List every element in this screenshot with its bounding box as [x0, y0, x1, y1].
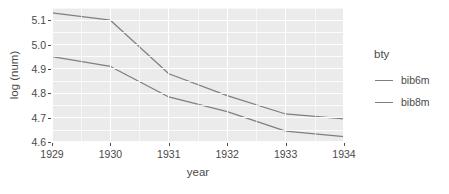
x-axis-tick-mark	[227, 143, 228, 146]
x-axis-title: year	[52, 166, 344, 178]
x-axis-tick-label: 1929	[32, 149, 72, 160]
y-axis-tick-mark	[48, 118, 51, 119]
plot-panel	[52, 8, 344, 142]
line-chart: log (num) 4.64.74.84.95.05.1 19291930193…	[0, 0, 449, 194]
legend-item-bib6m[interactable]: bib6m	[374, 69, 446, 91]
legend-item-label: bib8m	[401, 96, 430, 108]
gridline-minor-vertical	[139, 8, 140, 142]
legend-title: bty	[374, 48, 446, 60]
x-axis-tick-label: 1932	[207, 149, 247, 160]
gridline-minor-vertical	[315, 8, 316, 142]
gridline-major-vertical	[110, 8, 111, 142]
gridline-major-vertical	[227, 8, 228, 142]
legend-line-key-icon	[374, 94, 394, 110]
x-axis-tick-label: 1933	[266, 149, 306, 160]
legend-item-bib8m[interactable]: bib8m	[374, 91, 446, 113]
y-axis-tick-mark	[48, 20, 51, 21]
legend-items: bib6mbib8m	[374, 69, 446, 113]
y-axis-tick-mark	[48, 142, 51, 143]
gridline-minor-vertical	[198, 8, 199, 142]
gridline-minor-vertical	[256, 8, 257, 142]
legend: bty bib6mbib8m	[374, 48, 446, 113]
gridline-major-vertical	[52, 8, 53, 142]
x-axis-tick-label: 1934	[324, 149, 364, 160]
y-axis-tick-mark	[48, 93, 51, 94]
legend-item-label: bib6m	[401, 74, 430, 86]
x-axis-tick-mark	[286, 143, 287, 146]
y-axis-tick-mark	[48, 45, 51, 46]
gridline-major-vertical	[285, 8, 286, 142]
legend-line-key-icon	[374, 72, 394, 88]
y-axis-tick-mark	[48, 69, 51, 70]
x-axis-tick-mark	[169, 143, 170, 146]
gridline-minor-vertical	[81, 8, 82, 142]
x-axis-tick-mark	[110, 143, 111, 146]
x-axis-tick-mark	[344, 143, 345, 146]
gridline-major-vertical	[168, 8, 169, 142]
x-axis-title-label: year	[187, 166, 209, 178]
gridline-major-vertical	[343, 8, 344, 142]
x-axis-tick-label: 1931	[149, 149, 189, 160]
x-axis-tick-mark	[52, 143, 53, 146]
x-axis-tick-label: 1930	[90, 149, 130, 160]
